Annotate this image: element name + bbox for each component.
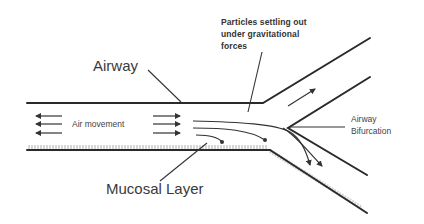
branch-flow-arrow <box>288 89 315 106</box>
airway-leader <box>148 70 181 102</box>
air-movement-arrows-right <box>153 116 180 133</box>
particles-label-line2: under gravitational <box>221 29 299 39</box>
particle-trajectories <box>193 121 322 166</box>
air-movement-label: Air movement <box>72 119 124 129</box>
airway-diagram <box>0 0 424 224</box>
air-movement-arrows-left <box>36 116 62 133</box>
particles-label-line3: forces <box>221 41 247 51</box>
mucosal-layer-label: Mucosal Layer <box>106 180 204 197</box>
airway-bifurcation-label-line1: Airway <box>351 114 377 124</box>
airway-bifurcation-label-line2: Bifurcation <box>351 126 391 136</box>
airway-label: Airway <box>93 57 138 74</box>
upper-wall <box>27 38 370 103</box>
particles-label-line1: Particles settling out <box>221 17 307 27</box>
